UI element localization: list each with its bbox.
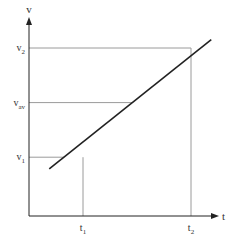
series-line-velocity <box>49 40 211 169</box>
velocity-time-graph: v t v1vavv2t1t2 <box>0 0 231 244</box>
y-tick-label: vav <box>13 97 25 111</box>
y-axis-label: v <box>26 3 32 15</box>
y-tick-label: v2 <box>17 42 26 56</box>
x-tick-label: t1 <box>80 222 87 236</box>
x-axis-arrow-icon <box>211 213 219 219</box>
x-tick-label: t2 <box>188 222 195 236</box>
axes: v t <box>26 3 225 222</box>
tick-labels: v1vavv2t1t2 <box>13 42 194 236</box>
y-tick-label: v1 <box>17 151 26 165</box>
x-axis-label: t <box>222 210 225 222</box>
series-group <box>49 40 211 169</box>
guide-lines <box>29 48 191 216</box>
y-axis-arrow-icon <box>26 17 32 25</box>
